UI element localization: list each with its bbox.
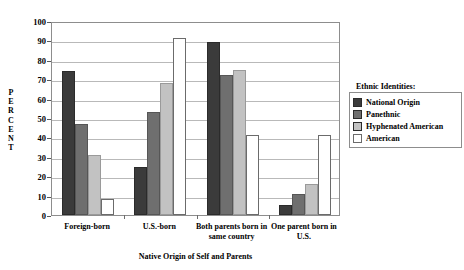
y-axis-title-letter: N (3, 134, 19, 143)
chart-figure: PERCENT 0102030405060708090100 Foreign-b… (0, 0, 464, 270)
y-axis-tick-label: 80 (20, 56, 46, 66)
legend-swatch-icon (353, 134, 362, 143)
legend-item[interactable]: Panethnic (353, 108, 458, 120)
bar[interactable] (75, 124, 88, 215)
x-axis-tick-label-line: same country (209, 232, 255, 241)
y-axis-title-letter: P (3, 88, 19, 97)
x-axis-title: Native Origin of Self and Parents (51, 252, 340, 261)
bar[interactable] (160, 83, 173, 215)
bar-group (52, 23, 124, 215)
legend-item[interactable]: Hyphenated American (353, 120, 458, 132)
y-axis-title-letter: T (3, 143, 19, 152)
legend-label: National Origin (366, 98, 420, 107)
legend-label: Hyphenated American (366, 122, 443, 131)
bar[interactable] (134, 167, 147, 216)
bar[interactable] (207, 42, 220, 215)
y-axis-tick-label: 20 (20, 172, 46, 182)
legend: National OriginPanethnicHyphenated Ameri… (349, 92, 462, 148)
y-axis-tick-label: 60 (20, 95, 46, 105)
legend-label: Panethnic (366, 110, 400, 119)
bar[interactable] (101, 199, 114, 215)
y-axis-tick-label: 70 (20, 75, 46, 85)
y-axis-tick-label: 90 (20, 36, 46, 46)
legend-item[interactable]: National Origin (353, 96, 458, 108)
bar[interactable] (318, 135, 331, 215)
y-axis-tick-labels: 0102030405060708090100 (20, 0, 46, 270)
y-axis-tick-mark (47, 216, 51, 217)
x-axis-tick-label-line: U.S.-born (143, 222, 176, 231)
bar-group (197, 23, 269, 215)
y-axis-tick-label: 100 (20, 17, 46, 27)
bar-group (124, 23, 196, 215)
legend-title: Ethnic Identities: (356, 82, 415, 91)
bar[interactable] (292, 194, 305, 215)
bar[interactable] (305, 184, 318, 215)
x-axis-group-separator (269, 215, 270, 219)
y-axis-title-letter: E (3, 125, 19, 134)
y-axis-title-letter: E (3, 97, 19, 106)
y-axis-tick-label: 40 (20, 133, 46, 143)
y-axis-title-letter: R (3, 106, 19, 115)
bar[interactable] (88, 155, 101, 215)
bar[interactable] (173, 38, 186, 215)
bar[interactable] (233, 70, 246, 216)
y-axis-tick-label: 50 (20, 114, 46, 124)
y-axis-title: PERCENT (3, 88, 19, 152)
y-axis-tick-label: 10 (20, 192, 46, 202)
legend-swatch-icon (353, 110, 362, 119)
x-axis-tick-label-line: One parent born in (271, 222, 337, 231)
x-axis-tick-labels: Foreign-bornU.S.-bornBoth parents born i… (51, 222, 340, 252)
y-axis-title-letter: C (3, 116, 19, 125)
bar[interactable] (220, 75, 233, 215)
bar-group (269, 23, 341, 215)
legend-label: American (366, 134, 400, 143)
y-axis-tick-label: 30 (20, 153, 46, 163)
x-axis-tick-label: One parent born inU.S. (262, 222, 346, 242)
x-axis-tick-label-line: U.S. (297, 232, 311, 241)
x-axis-tick-label-line: Both parents born in (196, 222, 267, 231)
x-axis-group-separator (197, 215, 198, 219)
y-axis-tick-label: 0 (20, 211, 46, 221)
legend-swatch-icon (353, 98, 362, 107)
bar[interactable] (147, 112, 160, 215)
x-axis-group-separator (124, 215, 125, 219)
bar[interactable] (246, 135, 259, 215)
legend-swatch-icon (353, 122, 362, 131)
x-axis-tick-label-line: Foreign-born (64, 222, 110, 231)
plot-area (51, 22, 340, 216)
bar[interactable] (62, 71, 75, 215)
bar[interactable] (279, 205, 292, 215)
legend-item[interactable]: American (353, 132, 458, 144)
